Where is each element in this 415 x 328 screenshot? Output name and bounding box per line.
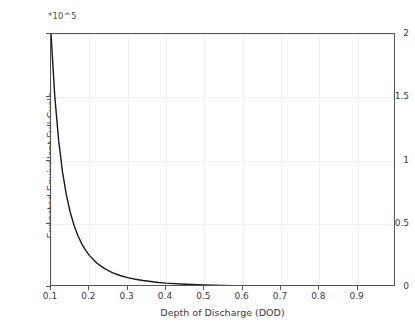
x-tick-mark xyxy=(318,286,319,290)
x-tick-mark xyxy=(280,286,281,290)
x-tick-label: 0.1 xyxy=(30,291,70,301)
x-tick-label: 0.4 xyxy=(145,291,185,301)
x-axis-title: Depth of Discharge (DOD) xyxy=(50,307,395,318)
y-tick-label: 1.5 xyxy=(371,91,415,101)
y-tick-mark xyxy=(46,96,50,97)
chart-figure: *10^5 Expected Equivalent Full Cycle Dep… xyxy=(0,0,415,328)
y-tick-label: 2 xyxy=(371,28,415,38)
y-axis-exponent-label: *10^5 xyxy=(48,11,77,21)
plot-area xyxy=(50,33,395,286)
x-tick-mark xyxy=(50,286,51,290)
x-tick-label: 0.5 xyxy=(183,291,223,301)
x-tick-mark xyxy=(203,286,204,290)
y-tick-mark xyxy=(46,33,50,34)
x-tick-label: 0.8 xyxy=(298,291,338,301)
y-tick-label: 0 xyxy=(371,281,415,291)
x-tick-mark xyxy=(165,286,166,290)
x-tick-label: 0.6 xyxy=(222,291,262,301)
y-tick-mark xyxy=(46,160,50,161)
x-tick-mark xyxy=(88,286,89,290)
y-tick-mark xyxy=(46,223,50,224)
x-tick-mark xyxy=(242,286,243,290)
x-tick-label: 0.9 xyxy=(337,291,377,301)
x-tick-mark xyxy=(357,286,358,290)
y-tick-label: 1 xyxy=(371,155,415,165)
y-tick-label: 0.5 xyxy=(371,218,415,228)
x-tick-mark xyxy=(127,286,128,290)
x-tick-label: 0.7 xyxy=(260,291,300,301)
data-curve xyxy=(51,34,395,286)
x-tick-label: 0.2 xyxy=(68,291,108,301)
x-tick-label: 0.3 xyxy=(107,291,147,301)
